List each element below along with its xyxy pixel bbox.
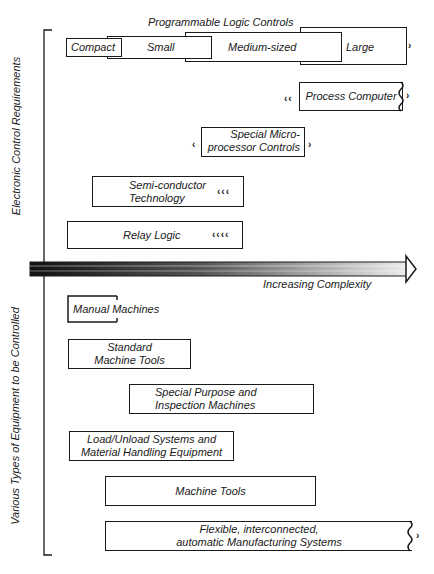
fms-break-edge: [0, 0, 434, 574]
continuation-right-icon: ›: [416, 530, 420, 542]
